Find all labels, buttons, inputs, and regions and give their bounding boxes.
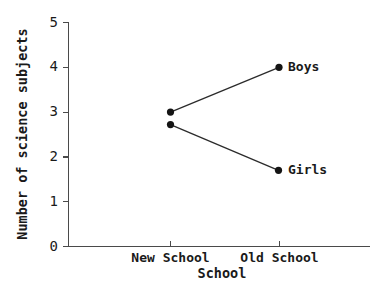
series-label-girls: Girls xyxy=(288,162,327,177)
y-tick-label-3: 3 xyxy=(50,103,58,119)
series-boys-point-new-school xyxy=(167,109,174,116)
series-boys-line xyxy=(171,67,280,112)
line-chart: 5 4 3 2 1 0 New School Old School School… xyxy=(0,0,391,296)
y-tick-label-4: 4 xyxy=(50,58,58,74)
x-tick-label-new-school: New School xyxy=(131,250,209,265)
y-tick-label-0: 0 xyxy=(50,238,58,254)
y-axis-title: Number of science subjects xyxy=(14,28,30,239)
series-label-boys: Boys xyxy=(288,59,319,74)
series-girls: Girls xyxy=(167,121,327,177)
y-tick-label-1: 1 xyxy=(50,193,58,209)
series-boys: Boys xyxy=(167,59,319,116)
x-axis-tick-labels: New School Old School xyxy=(131,250,318,265)
x-axis-title: School xyxy=(198,265,247,281)
y-tick-label-2: 2 xyxy=(50,148,58,164)
series-girls-point-new-school xyxy=(167,121,174,128)
x-axis-ticks xyxy=(171,241,280,247)
series-girls-point-old-school xyxy=(275,167,282,174)
series-boys-point-old-school xyxy=(275,64,282,71)
plot-area: 5 4 3 2 1 0 New School Old School School… xyxy=(0,0,391,296)
y-tick-label-5: 5 xyxy=(50,14,58,30)
x-tick-label-old-school: Old School xyxy=(240,250,318,265)
y-axis-ticks xyxy=(63,23,69,247)
series-girls-line xyxy=(171,125,279,171)
y-axis-tick-labels: 5 4 3 2 1 0 xyxy=(50,14,58,254)
